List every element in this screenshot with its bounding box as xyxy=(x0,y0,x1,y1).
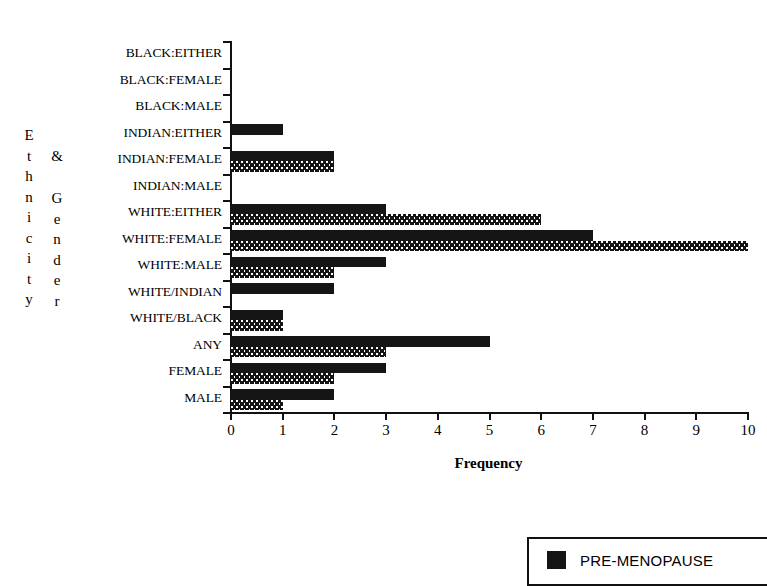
x-axis-tick-label: 4 xyxy=(423,422,453,439)
bar xyxy=(231,336,490,347)
bar-chart-plot-area: 012345678910 xyxy=(230,41,747,412)
y-axis-tick xyxy=(223,41,232,43)
y-axis-tick xyxy=(223,359,232,361)
x-axis-tick-label: 8 xyxy=(630,422,660,439)
bar xyxy=(231,230,593,241)
category-label: INDIAN:MALE xyxy=(0,178,230,194)
y-axis-tick xyxy=(223,333,232,335)
x-axis-caption: Frequency xyxy=(230,455,747,472)
x-axis-tick-label: 9 xyxy=(681,422,711,439)
category-label: WHITE:MALE xyxy=(0,257,230,273)
bar xyxy=(231,257,386,268)
category-label: ANY xyxy=(0,337,230,353)
x-axis-tick-label: 7 xyxy=(578,422,608,439)
bar xyxy=(231,204,386,215)
x-axis-tick-label: 0 xyxy=(216,422,246,439)
x-axis-tick-label: 3 xyxy=(371,422,401,439)
y-axis-tick xyxy=(223,68,232,70)
bar xyxy=(231,389,334,400)
x-axis-tick xyxy=(230,412,232,420)
y-axis-tick xyxy=(223,306,232,308)
category-label: MALE xyxy=(0,390,230,406)
x-axis-tick xyxy=(282,412,284,420)
x-axis-tick xyxy=(437,412,439,420)
bar xyxy=(231,400,283,411)
category-label: WHITE:FEMALE xyxy=(0,231,230,247)
category-label: WHITE/INDIAN xyxy=(0,284,230,300)
x-axis-tick xyxy=(540,412,542,420)
category-label: WHITE:EITHER xyxy=(0,204,230,220)
x-axis-tick xyxy=(644,412,646,420)
bar xyxy=(231,310,283,321)
bar xyxy=(231,214,541,225)
x-axis-tick xyxy=(695,412,697,420)
bar xyxy=(231,320,283,331)
bar xyxy=(231,283,334,294)
category-label: WHITE/BLACK xyxy=(0,310,230,326)
x-axis-tick-label: 2 xyxy=(319,422,349,439)
x-axis-tick-label: 5 xyxy=(475,422,505,439)
y-axis-tick xyxy=(223,147,232,149)
y-axis-tick xyxy=(223,200,232,202)
y-axis-tick xyxy=(223,94,232,96)
legend: PRE-MENOPAUSE xyxy=(527,537,767,586)
x-axis-tick xyxy=(489,412,491,420)
x-axis-tick-label: 1 xyxy=(268,422,298,439)
legend-item-label: PRE-MENOPAUSE xyxy=(580,552,713,569)
category-label: FEMALE xyxy=(0,363,230,379)
x-axis-tick-label: 6 xyxy=(526,422,556,439)
category-label: INDIAN:FEMALE xyxy=(0,151,230,167)
legend-item-pre-menopause: PRE-MENOPAUSE xyxy=(547,551,713,569)
bar xyxy=(231,267,334,278)
y-axis-tick xyxy=(223,253,232,255)
legend-swatch-icon xyxy=(547,551,566,569)
x-axis-tick xyxy=(333,412,335,420)
bar xyxy=(231,373,334,384)
bar xyxy=(231,241,748,252)
x-axis-tick xyxy=(385,412,387,420)
y-axis-tick xyxy=(223,227,232,229)
category-label: INDIAN:EITHER xyxy=(0,125,230,141)
bar xyxy=(231,161,334,172)
y-axis-tick xyxy=(223,386,232,388)
x-axis-tick xyxy=(592,412,594,420)
bar xyxy=(231,347,386,358)
bar xyxy=(231,363,386,374)
category-label: BLACK:FEMALE xyxy=(0,72,230,88)
bar xyxy=(231,151,334,162)
category-label: BLACK:MALE xyxy=(0,98,230,114)
y-axis-tick xyxy=(223,121,232,123)
x-axis-tick-label: 10 xyxy=(733,422,763,439)
y-axis-tick xyxy=(223,174,232,176)
bar xyxy=(231,124,283,135)
y-axis-tick xyxy=(223,280,232,282)
category-label: BLACK:EITHER xyxy=(0,45,230,61)
x-axis-tick xyxy=(747,412,749,420)
